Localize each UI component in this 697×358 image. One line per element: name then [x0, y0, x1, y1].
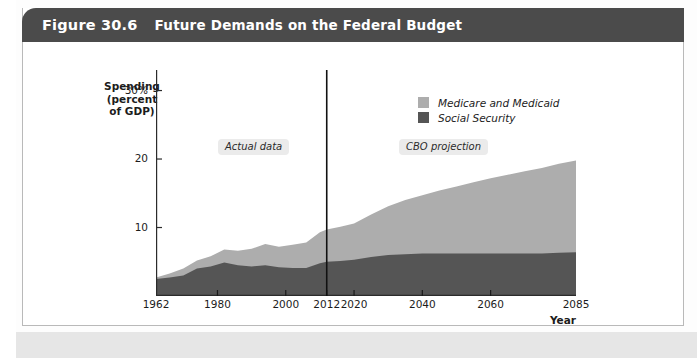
- figure-title: Future Demands on the Federal Budget: [155, 17, 463, 33]
- y-axis-tick-labels: 102030%: [108, 70, 148, 296]
- chart-svg: [156, 70, 576, 296]
- page-bottom-band: [16, 332, 697, 358]
- figure-header-bar: Figure 30.6 Future Demands on the Federa…: [22, 8, 684, 42]
- x-axis-tick-labels: 19621980200020122020204020602085: [156, 298, 616, 314]
- x-tick-label-2020: 2020: [341, 298, 368, 310]
- x-tick-label-2012: 2012: [313, 298, 340, 310]
- figure-number: Figure 30.6: [42, 17, 138, 33]
- x-axis-title: Year: [22, 314, 576, 326]
- y-tick-label-30: 30%: [125, 84, 148, 96]
- x-tick-label-2040: 2040: [409, 298, 436, 310]
- x-tick-label-1962: 1962: [143, 298, 170, 310]
- x-tick-label-2085: 2085: [563, 298, 590, 310]
- annotation-actual-data: Actual data: [218, 139, 289, 155]
- annotation-cbo-projection: CBO projection: [399, 139, 488, 155]
- y-tick-label-10: 10: [135, 221, 148, 233]
- y-tick-label-20: 20: [135, 152, 148, 164]
- plot-area: [156, 70, 576, 296]
- x-tick-label-2060: 2060: [477, 298, 504, 310]
- x-tick-label-1980: 1980: [204, 298, 231, 310]
- chart-body: Spending (percent of GDP) Medicare and M…: [22, 42, 684, 326]
- page-gutter: [0, 0, 16, 358]
- x-tick-label-2000: 2000: [272, 298, 299, 310]
